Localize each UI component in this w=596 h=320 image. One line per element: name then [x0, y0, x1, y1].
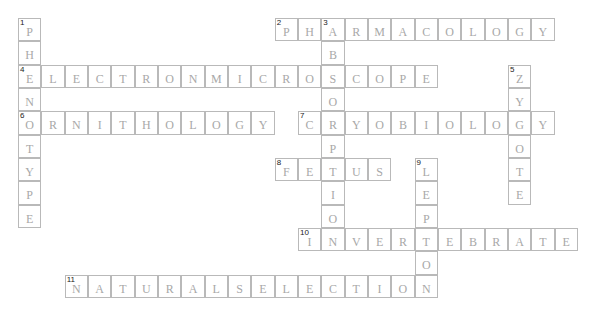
crossword-cell[interactable]: E — [251, 275, 274, 298]
crossword-cell[interactable]: R — [345, 18, 368, 41]
crossword-cell[interactable]: C — [321, 275, 344, 298]
crossword-cell[interactable]: A — [391, 18, 414, 41]
crossword-cell[interactable]: I — [88, 111, 111, 134]
crossword-cell[interactable]: T — [345, 275, 368, 298]
crossword-cell[interactable]: 11N — [65, 275, 88, 298]
crossword-cell[interactable]: O — [438, 18, 461, 41]
crossword-cell[interactable]: A — [181, 275, 204, 298]
crossword-cell[interactable]: I — [368, 275, 391, 298]
crossword-cell[interactable]: S — [321, 65, 344, 88]
crossword-cell[interactable]: V — [345, 228, 368, 251]
crossword-cell[interactable]: C — [251, 65, 274, 88]
crossword-cell[interactable]: H — [18, 41, 41, 64]
crossword-cell[interactable]: P — [391, 65, 414, 88]
crossword-cell[interactable]: T — [321, 158, 344, 181]
crossword-cell[interactable]: A — [508, 228, 531, 251]
crossword-cell[interactable]: Y — [531, 111, 554, 134]
crossword-cell[interactable]: L — [275, 275, 298, 298]
crossword-cell[interactable]: I — [321, 181, 344, 204]
crossword-cell[interactable]: Y — [531, 18, 554, 41]
crossword-cell[interactable]: E — [415, 181, 438, 204]
crossword-cell[interactable]: R — [41, 111, 64, 134]
crossword-cell[interactable]: 6O — [18, 111, 41, 134]
crossword-cell[interactable]: T — [111, 65, 134, 88]
crossword-cell[interactable]: O — [438, 111, 461, 134]
crossword-cell[interactable]: H — [135, 111, 158, 134]
crossword-cell[interactable]: O — [158, 65, 181, 88]
crossword-cell[interactable]: Y — [345, 111, 368, 134]
crossword-cell[interactable]: P — [18, 181, 41, 204]
crossword-cell[interactable]: O — [298, 65, 321, 88]
crossword-cell[interactable]: C — [88, 65, 111, 88]
crossword-cell[interactable]: E — [18, 205, 41, 228]
crossword-cell[interactable]: R — [321, 111, 344, 134]
crossword-cell[interactable]: P — [321, 135, 344, 158]
crossword-cell[interactable]: T — [111, 275, 134, 298]
crossword-cell[interactable]: E — [555, 228, 578, 251]
crossword-cell[interactable]: P — [415, 205, 438, 228]
crossword-cell[interactable]: L — [461, 18, 484, 41]
crossword-cell[interactable]: T — [18, 135, 41, 158]
crossword-cell[interactable]: T — [415, 228, 438, 251]
crossword-cell[interactable]: 9L — [415, 158, 438, 181]
crossword-cell[interactable]: N — [415, 275, 438, 298]
crossword-cell[interactable]: B — [321, 41, 344, 64]
crossword-cell[interactable]: O — [485, 111, 508, 134]
crossword-cell[interactable]: E — [65, 65, 88, 88]
crossword-cell[interactable]: U — [135, 275, 158, 298]
crossword-cell[interactable]: S — [368, 158, 391, 181]
crossword-cell[interactable]: A — [88, 275, 111, 298]
crossword-cell[interactable]: G — [508, 18, 531, 41]
crossword-cell[interactable]: E — [368, 228, 391, 251]
crossword-cell[interactable]: 7C — [298, 111, 321, 134]
crossword-cell[interactable]: N — [321, 228, 344, 251]
crossword-cell[interactable]: C — [415, 18, 438, 41]
crossword-cell[interactable]: O — [205, 111, 228, 134]
crossword-cell[interactable]: E — [298, 158, 321, 181]
crossword-cell[interactable]: O — [485, 18, 508, 41]
crossword-cell[interactable]: E — [508, 181, 531, 204]
crossword-cell[interactable]: C — [345, 65, 368, 88]
crossword-cell[interactable]: G — [228, 111, 251, 134]
crossword-cell[interactable]: N — [181, 65, 204, 88]
crossword-cell[interactable]: O — [158, 111, 181, 134]
crossword-cell[interactable]: S — [228, 275, 251, 298]
crossword-cell[interactable]: 10I — [298, 228, 321, 251]
crossword-cell[interactable]: 8F — [275, 158, 298, 181]
crossword-cell[interactable]: O — [368, 65, 391, 88]
crossword-cell[interactable]: E — [298, 275, 321, 298]
crossword-cell[interactable]: R — [158, 275, 181, 298]
crossword-cell[interactable]: E — [438, 228, 461, 251]
crossword-cell[interactable]: M — [205, 65, 228, 88]
crossword-cell[interactable]: O — [368, 111, 391, 134]
crossword-cell[interactable]: L — [205, 275, 228, 298]
crossword-cell[interactable]: O — [391, 275, 414, 298]
crossword-cell[interactable]: Y — [508, 88, 531, 111]
crossword-cell[interactable]: U — [345, 158, 368, 181]
crossword-cell[interactable]: L — [181, 111, 204, 134]
crossword-cell[interactable]: O — [508, 135, 531, 158]
crossword-cell[interactable]: Y — [251, 111, 274, 134]
crossword-cell[interactable]: T — [111, 111, 134, 134]
crossword-cell[interactable]: 2P — [275, 18, 298, 41]
crossword-cell[interactable]: Y — [18, 158, 41, 181]
crossword-cell[interactable]: 1P — [18, 18, 41, 41]
crossword-cell[interactable]: R — [391, 228, 414, 251]
crossword-cell[interactable]: G — [508, 111, 531, 134]
crossword-cell[interactable]: N — [65, 111, 88, 134]
crossword-cell[interactable]: B — [461, 228, 484, 251]
crossword-cell[interactable]: 4E — [18, 65, 41, 88]
crossword-cell[interactable]: B — [391, 111, 414, 134]
crossword-cell[interactable]: T — [508, 158, 531, 181]
crossword-cell[interactable]: L — [41, 65, 64, 88]
crossword-cell[interactable]: E — [415, 65, 438, 88]
crossword-cell[interactable]: R — [135, 65, 158, 88]
crossword-cell[interactable]: L — [461, 111, 484, 134]
crossword-cell[interactable]: R — [485, 228, 508, 251]
crossword-cell[interactable]: O — [321, 205, 344, 228]
crossword-cell[interactable]: 5Z — [508, 65, 531, 88]
crossword-cell[interactable]: O — [321, 88, 344, 111]
crossword-cell[interactable]: N — [18, 88, 41, 111]
crossword-cell[interactable]: T — [531, 228, 554, 251]
crossword-cell[interactable]: M — [368, 18, 391, 41]
